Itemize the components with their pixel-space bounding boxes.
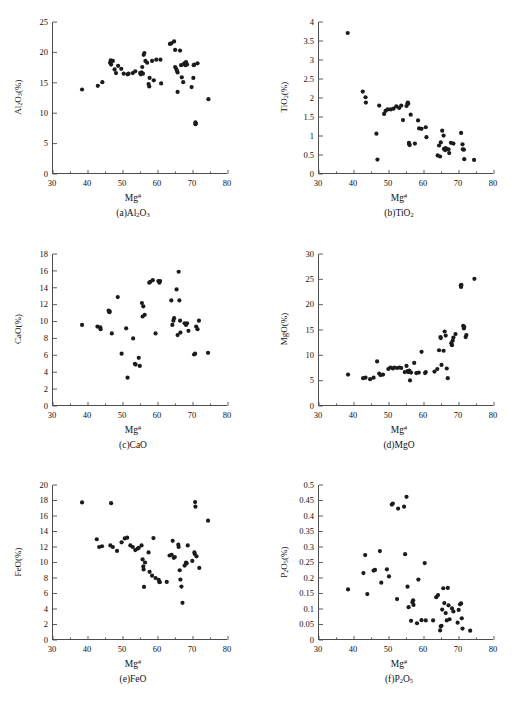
data-point bbox=[406, 102, 410, 106]
plot-area-f bbox=[318, 485, 493, 640]
data-point bbox=[424, 370, 428, 374]
data-point bbox=[435, 367, 439, 371]
data-point bbox=[385, 567, 389, 571]
data-point bbox=[419, 127, 423, 131]
data-point bbox=[372, 376, 376, 380]
data-point bbox=[197, 566, 201, 570]
y-tick-label: 5 bbox=[266, 376, 314, 385]
data-point bbox=[138, 364, 142, 368]
data-point bbox=[158, 58, 162, 62]
data-point bbox=[453, 332, 457, 336]
data-point bbox=[396, 506, 400, 510]
x-tick-label: 60 bbox=[408, 411, 438, 420]
data-point bbox=[346, 31, 350, 35]
y-tick-label: 30 bbox=[266, 250, 314, 259]
y-tick-label: 8 bbox=[0, 574, 48, 583]
x-axis-label-text: Mg# bbox=[125, 425, 141, 435]
data-point bbox=[111, 545, 115, 549]
y-tick-label: 3.5 bbox=[266, 37, 314, 46]
y-tick-label: 6 bbox=[0, 351, 48, 360]
y-tick-label: 10 bbox=[0, 558, 48, 567]
data-point bbox=[419, 350, 423, 354]
y-tick-label: 3 bbox=[266, 56, 314, 65]
x-axis-label-text: Mg# bbox=[125, 659, 141, 669]
x-tick-label: 40 bbox=[72, 645, 102, 654]
data-layer-e bbox=[53, 485, 230, 642]
panel-caption-text: (b)TiO2 bbox=[384, 208, 413, 218]
y-axis-label-text: FeO(%) bbox=[13, 547, 23, 576]
data-point bbox=[142, 585, 146, 589]
y-tick-label: 1 bbox=[266, 132, 314, 141]
data-point bbox=[472, 158, 476, 162]
y-axis-label-f: P2O5(%) bbox=[279, 519, 289, 605]
data-point bbox=[174, 287, 178, 291]
x-tick-label: 70 bbox=[443, 179, 473, 188]
data-point bbox=[95, 537, 99, 541]
y-axis-label-text: P2O5(%) bbox=[279, 546, 289, 577]
y-axis-label-c: CaO(%) bbox=[13, 286, 23, 372]
data-point bbox=[145, 61, 149, 65]
data-point bbox=[460, 142, 464, 146]
x-tick-label: 50 bbox=[373, 179, 403, 188]
data-point bbox=[412, 361, 416, 365]
panel-caption-text: (c)CaO bbox=[119, 440, 147, 450]
scatter-panel-c: 024681012141618304050607080CaO(%)Mg#(c)C… bbox=[0, 240, 266, 465]
data-point bbox=[148, 76, 152, 80]
data-point bbox=[391, 502, 395, 506]
data-point bbox=[377, 104, 381, 108]
data-point bbox=[171, 539, 175, 543]
data-point bbox=[124, 326, 128, 330]
data-point bbox=[442, 601, 446, 605]
y-tick-label: 6 bbox=[0, 589, 48, 598]
data-point bbox=[172, 316, 176, 320]
data-point bbox=[375, 157, 379, 161]
data-point bbox=[119, 67, 123, 71]
y-tick-label: 16 bbox=[0, 512, 48, 521]
data-point bbox=[137, 356, 141, 360]
data-point bbox=[409, 113, 413, 117]
panel-caption-text: (e)FeO bbox=[120, 674, 147, 684]
data-point bbox=[381, 372, 385, 376]
data-point bbox=[437, 348, 441, 352]
x-tick-label: 80 bbox=[212, 411, 242, 420]
x-axis-label-a: Mg# bbox=[0, 192, 266, 203]
data-point bbox=[399, 366, 403, 370]
x-axis-label-text: Mg# bbox=[391, 193, 407, 203]
data-point bbox=[444, 611, 448, 615]
x-tick-label: 30 bbox=[37, 645, 67, 654]
data-point bbox=[401, 118, 405, 122]
x-tick-label: 50 bbox=[107, 411, 137, 420]
x-tick-label: 30 bbox=[303, 179, 333, 188]
data-point bbox=[468, 629, 472, 633]
plot-area-a bbox=[52, 22, 227, 174]
data-point bbox=[114, 71, 118, 75]
data-point bbox=[403, 552, 407, 556]
panel-caption-text: (a)Al2O3 bbox=[116, 208, 149, 218]
y-tick-label: 18 bbox=[0, 496, 48, 505]
data-point bbox=[364, 100, 368, 104]
y-tick-label: 4 bbox=[0, 368, 48, 377]
data-point bbox=[177, 270, 181, 274]
data-point bbox=[152, 78, 156, 82]
data-point bbox=[439, 336, 443, 340]
data-layer-b bbox=[319, 22, 496, 176]
x-axis-label-text: Mg# bbox=[391, 659, 407, 669]
y-tick-label: 20 bbox=[266, 300, 314, 309]
y-tick-label: 2 bbox=[266, 94, 314, 103]
y-tick-label: 4 bbox=[266, 18, 314, 27]
y-tick-label: 20 bbox=[0, 481, 48, 490]
x-axis-label-e: Mg# bbox=[0, 658, 266, 669]
panel-caption-c: (c)CaO bbox=[0, 440, 266, 450]
data-point bbox=[439, 624, 443, 628]
data-point bbox=[169, 298, 173, 302]
y-tick-label: 0.4 bbox=[266, 512, 314, 521]
data-point bbox=[459, 601, 463, 605]
data-point bbox=[142, 567, 146, 571]
data-point bbox=[140, 65, 144, 69]
data-point bbox=[148, 570, 152, 574]
data-point bbox=[113, 67, 117, 71]
data-point bbox=[411, 603, 415, 607]
y-tick-label: 10 bbox=[0, 109, 48, 118]
data-point bbox=[141, 304, 145, 308]
data-point bbox=[195, 327, 199, 331]
